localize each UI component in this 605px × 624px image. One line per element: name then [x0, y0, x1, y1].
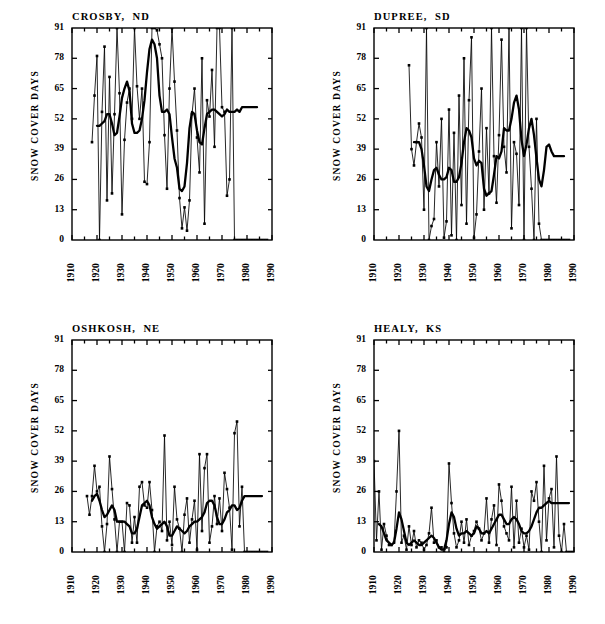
data-point-marker [101, 111, 104, 114]
data-point-marker [106, 523, 109, 526]
data-point-marker [251, 239, 254, 242]
x-tick-label: 1990 [569, 569, 579, 601]
data-point-marker [193, 499, 196, 502]
data-point-marker [133, 27, 136, 30]
data-point-marker [201, 530, 204, 533]
data-point-marker [123, 139, 126, 142]
y-tick-label: 13 [38, 205, 64, 215]
data-point-marker [201, 57, 204, 60]
data-point-marker [146, 506, 149, 509]
data-point-marker [116, 551, 119, 554]
data-point-marker [558, 239, 561, 242]
data-point-marker [533, 239, 536, 242]
data-point-marker [495, 544, 498, 547]
data-point-marker [96, 55, 99, 58]
data-point-marker [213, 146, 216, 149]
data-point-marker [493, 155, 496, 158]
x-tick-label: 1910 [369, 257, 379, 289]
data-point-marker [213, 495, 216, 498]
data-point-marker [258, 239, 261, 242]
data-point-marker [548, 497, 551, 500]
data-point-marker [136, 85, 139, 88]
x-tick-label: 1930 [419, 569, 429, 601]
x-tick-label: 1980 [242, 257, 252, 289]
data-point-marker [500, 499, 503, 502]
data-point-marker [266, 239, 269, 242]
data-point-marker [515, 499, 518, 502]
data-point-marker [503, 525, 506, 528]
data-point-marker [243, 551, 246, 554]
data-point-marker [206, 99, 209, 102]
data-point-marker [126, 502, 129, 505]
x-tick-label: 1930 [419, 257, 429, 289]
data-point-marker [203, 467, 206, 470]
data-point-marker [146, 183, 149, 186]
data-point-marker [423, 548, 426, 551]
data-point-marker [373, 460, 376, 463]
x-tick-label: 1920 [394, 257, 404, 289]
x-tick-label: 1960 [192, 569, 202, 601]
x-tick-label: 1970 [217, 569, 227, 601]
data-point-marker [415, 546, 418, 549]
data-point-marker [218, 497, 221, 500]
data-point-marker [525, 27, 528, 30]
x-tick-label: 1960 [192, 257, 202, 289]
y-tick-label: 26 [38, 486, 64, 496]
panel-healy: HEALY, KS 013263952657891191019201930194… [302, 312, 605, 624]
data-point-marker [183, 513, 186, 516]
data-point-marker [428, 239, 431, 242]
data-point-marker [188, 199, 191, 202]
data-point-marker [211, 69, 214, 72]
data-point-marker [266, 551, 269, 554]
x-tick-label: 1970 [519, 257, 529, 289]
data-point-marker [208, 541, 211, 544]
annual-series-line [409, 28, 569, 240]
data-point-marker [131, 541, 134, 544]
x-tick-label: 1920 [92, 257, 102, 289]
x-tick-label: 1990 [267, 257, 277, 289]
data-point-marker [555, 239, 558, 242]
data-point-marker [121, 213, 124, 216]
y-tick-label: 78 [340, 53, 366, 63]
data-point-marker [523, 239, 526, 242]
panel-oshkosh: OSHKOSH, NE 0132639526578911910192019301… [0, 312, 302, 624]
data-point-marker [168, 520, 171, 523]
data-point-marker [540, 239, 543, 242]
data-point-marker [558, 534, 561, 537]
data-point-marker [443, 236, 446, 239]
x-tick-label: 1980 [242, 569, 252, 601]
x-tick-label: 1930 [117, 569, 127, 601]
data-point-marker [186, 497, 189, 500]
data-point-marker [483, 208, 486, 211]
data-point-marker [545, 539, 548, 542]
data-point-marker [500, 38, 503, 41]
data-point-marker [540, 551, 543, 554]
data-point-marker [460, 520, 463, 523]
data-point-marker [256, 551, 259, 554]
data-point-marker [173, 485, 176, 488]
x-tick-label: 1940 [444, 257, 454, 289]
data-point-marker [243, 239, 246, 242]
data-point-marker [568, 239, 571, 242]
data-point-marker [158, 43, 161, 46]
y-axis-label: SNOW COVER DAYS [30, 382, 40, 493]
data-point-marker [153, 551, 156, 554]
y-tick-label: 78 [38, 53, 64, 63]
data-point-marker [553, 546, 556, 549]
data-point-marker [475, 213, 478, 216]
data-point-marker [161, 57, 164, 60]
data-point-marker [570, 551, 573, 554]
figure-panel-grid: CROSBY, ND 01326395265789119101920193019… [0, 0, 605, 624]
x-tick-label: 1950 [469, 569, 479, 601]
data-point-marker [163, 434, 166, 437]
y-tick-label: 13 [38, 517, 64, 527]
y-tick-label: 65 [38, 84, 64, 94]
data-point-marker [560, 239, 563, 242]
data-point-marker [223, 471, 226, 474]
y-tick-label: 0 [340, 547, 366, 557]
data-point-marker [181, 551, 184, 554]
x-tick-label: 1990 [569, 257, 579, 289]
data-point-marker [123, 551, 126, 554]
x-tick-label: 1910 [369, 569, 379, 601]
y-tick-label: 91 [38, 23, 64, 33]
